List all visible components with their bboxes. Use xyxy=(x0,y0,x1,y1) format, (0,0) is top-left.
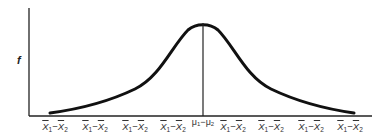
x-tick-label: X1−X2 xyxy=(160,121,186,136)
mean-label: μ1−μ2 xyxy=(192,117,214,127)
x-tick-label: X1−X2 xyxy=(220,121,246,136)
x-tick-label: X1−X2 xyxy=(122,121,148,136)
x-tick-label: X1−X2 xyxy=(258,121,284,136)
x-tick-label: X1−X2 xyxy=(82,121,108,136)
normal-distribution-chart: f X1−X2 X1−X2 X1−X2 X1−X2 μ1−μ2 X1−X2 X1… xyxy=(0,0,390,139)
x-tick-label: X1−X2 xyxy=(42,121,68,136)
bell-curve xyxy=(50,25,354,113)
x-tick-label: X1−X2 xyxy=(298,121,324,136)
y-axis-label: f xyxy=(17,54,21,66)
x-tick-label: X1−X2 xyxy=(337,121,363,136)
